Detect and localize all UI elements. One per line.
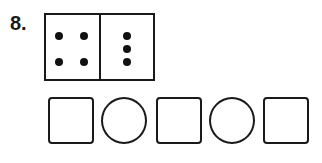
answer-circle-2[interactable] bbox=[209, 97, 255, 144]
pip-dot bbox=[55, 32, 63, 40]
domino-card bbox=[44, 13, 155, 81]
answer-circle-1[interactable] bbox=[101, 97, 147, 144]
pip-dot bbox=[80, 58, 88, 66]
answer-box-square-2[interactable] bbox=[156, 97, 202, 144]
pip-dot bbox=[55, 58, 63, 66]
domino-divider bbox=[99, 15, 101, 79]
answer-box-square-3[interactable] bbox=[263, 97, 309, 144]
problem-number: 8. bbox=[10, 12, 27, 35]
pip-dot bbox=[123, 32, 131, 40]
answer-box-square-1[interactable] bbox=[48, 97, 94, 144]
pip-dot bbox=[123, 45, 131, 53]
pip-dot bbox=[80, 32, 88, 40]
pip-dot bbox=[123, 58, 131, 66]
